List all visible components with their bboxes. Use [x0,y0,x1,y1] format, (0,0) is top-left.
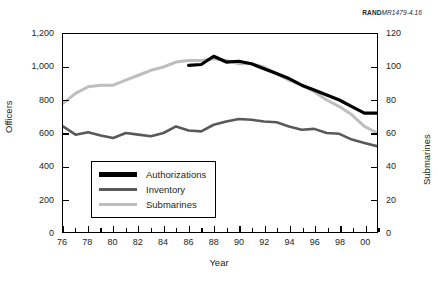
x-tick-label: 84 [158,238,168,247]
y-axis-title-right: Submarines [421,134,432,185]
y-tick-label-left: 1,200 [31,29,54,38]
x-tick-label: 80 [108,238,118,247]
x-tick [62,226,63,232]
y-tick-label-right: 0 [386,229,391,238]
figure-root: RANDMR1479-4.16 Officers Submarines Year… [0,0,438,283]
x-tick [138,226,139,232]
legend-label: Submarines [146,200,197,210]
x-tick [151,228,152,232]
x-tick-label: 98 [335,238,345,247]
x-tick [315,226,316,232]
x-tick [265,226,266,232]
y-axis-title-left: Officers [3,100,14,133]
y-tick-left [63,67,69,68]
legend-swatch-icon [99,188,137,192]
y-tick-label-left: 600 [39,129,54,138]
legend-item-inventory: Inventory [99,182,206,197]
x-tick [340,226,341,232]
legend-label: Authorizations [146,170,206,180]
x-tick-label: 92 [259,238,269,247]
x-tick [88,226,89,232]
y-tick-left [63,167,69,168]
x-tick-label: 94 [285,238,295,247]
x-tick-label: 78 [82,238,92,247]
x-tick [75,228,76,232]
x-tick [239,226,240,232]
y-tick-left [63,200,69,201]
y-tick-label-right: 120 [386,29,401,38]
y-tick-right [371,67,377,68]
x-tick [277,228,278,232]
y-tick-label-right: 100 [386,62,401,71]
figure-source-tag: RANDMR1479-4.16 [362,9,422,16]
y-tick-label-right: 20 [386,195,396,204]
x-tick-label: 96 [310,238,320,247]
x-tick-label: 90 [234,238,244,247]
y-tick-right [371,167,377,168]
x-tick [227,228,228,232]
x-tick [189,226,190,232]
y-tick-left [63,100,69,101]
x-tick [353,228,354,232]
y-tick-label-right: 60 [386,129,396,138]
y-tick-label-right: 80 [386,95,396,104]
x-tick [290,226,291,232]
y-tick-label-left: 200 [39,195,54,204]
y-tick-label-left: 1,000 [31,62,54,71]
legend-item-authorizations: Authorizations [99,167,206,182]
y-tick-right [371,133,377,134]
y-tick-label-left: 400 [39,162,54,171]
legend-swatch-icon [99,172,137,177]
x-tick-label: 82 [133,238,143,247]
legend-item-submarines: Submarines [99,197,206,212]
x-tick [303,228,304,232]
chart-legend: AuthorizationsInventorySubmarines [91,161,216,218]
source-tag-number: MR1479-4.16 [382,9,422,16]
y-tick-label-left: 0 [49,229,54,238]
x-tick [113,226,114,232]
x-tick [378,228,379,232]
source-tag-brand: RAND [362,9,381,16]
x-tick [201,228,202,232]
x-tick [328,228,329,232]
y-tick-right [371,200,377,201]
x-tick-label: 86 [183,238,193,247]
series-line-authorizations [189,56,377,113]
x-tick-label: 00 [360,238,370,247]
y-tick-label-left: 800 [39,95,54,104]
y-tick-right [371,100,377,101]
x-axis-title: Year [0,257,438,268]
x-tick [164,226,165,232]
x-tick [176,228,177,232]
x-tick [100,228,101,232]
x-tick [126,228,127,232]
legend-swatch-icon [99,203,137,207]
x-tick [366,226,367,232]
x-tick [252,228,253,232]
y-tick-left [63,133,69,134]
x-tick-label: 88 [209,238,219,247]
series-line-inventory [63,119,377,146]
legend-label: Inventory [146,185,185,195]
x-tick-label: 76 [57,238,67,247]
x-tick [214,226,215,232]
y-tick-label-right: 40 [386,162,396,171]
